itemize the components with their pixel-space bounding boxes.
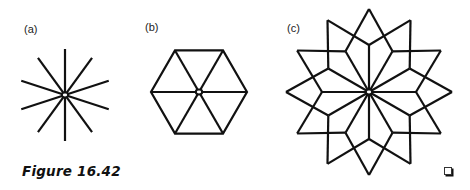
- panel-a-spokes: [21, 49, 109, 141]
- panel-b-hexagon: [151, 50, 247, 133]
- figure-drawing: [0, 0, 470, 190]
- panel-c-star: [286, 9, 452, 175]
- figure-caption: Figure 16.42: [22, 165, 121, 179]
- end-mark-icon: [444, 167, 452, 175]
